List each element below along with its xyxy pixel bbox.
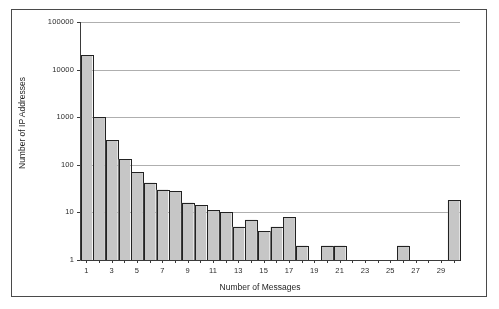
x-tick-label: 25 bbox=[380, 266, 400, 275]
x-tick-label: 9 bbox=[178, 266, 198, 275]
x-tick-label: 27 bbox=[406, 266, 426, 275]
y-tick-label: 1 bbox=[20, 255, 74, 264]
x-tick-label: 15 bbox=[254, 266, 274, 275]
y-tick-label: 10000 bbox=[20, 65, 74, 74]
bar-chart-plot bbox=[0, 0, 499, 309]
y-tick-label: 1000 bbox=[20, 112, 74, 121]
x-axis-title: Number of Messages bbox=[60, 282, 460, 292]
x-tick-label: 29 bbox=[431, 266, 451, 275]
x-tick-label: 13 bbox=[228, 266, 248, 275]
x-tick-label: 19 bbox=[304, 266, 324, 275]
x-tick-label: 21 bbox=[330, 266, 350, 275]
y-tick-label: 100 bbox=[20, 160, 74, 169]
x-tick-label: 11 bbox=[203, 266, 223, 275]
x-tick-label: 23 bbox=[355, 266, 375, 275]
x-tick-label: 17 bbox=[279, 266, 299, 275]
x-tick-label: 3 bbox=[102, 266, 122, 275]
y-tick-label: 10 bbox=[20, 207, 74, 216]
y-tick-label: 100000 bbox=[20, 17, 74, 26]
x-tick-label: 7 bbox=[152, 266, 172, 275]
x-tick-label: 1 bbox=[76, 266, 96, 275]
x-tick-label: 5 bbox=[127, 266, 147, 275]
